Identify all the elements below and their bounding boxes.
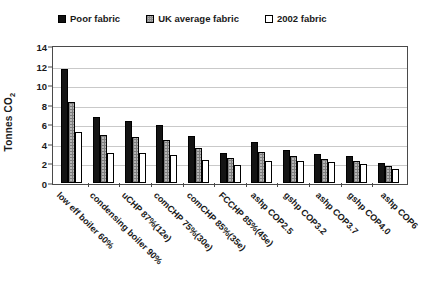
bar-0: [156, 125, 163, 183]
x-axis-tick-mark: [309, 183, 310, 187]
y-axis-tick-label: 0: [42, 179, 47, 190]
bar-0: [346, 156, 353, 183]
x-axis-label: comCHP 85%(35e): [185, 190, 248, 253]
y-axis-tick-mark: [48, 105, 52, 106]
bar-2: [328, 162, 335, 183]
bar-1: [100, 135, 107, 183]
bar-0: [314, 154, 321, 183]
x-axis-label: low eff boiler 60%: [55, 190, 116, 251]
bar-group: [183, 48, 215, 183]
bar-2: [107, 153, 114, 183]
y-axis-title: Tonnes CO2: [2, 62, 18, 182]
bar-group: [119, 48, 151, 183]
bar-0: [251, 142, 258, 183]
plot-area: [52, 46, 408, 185]
bar-group: [246, 48, 278, 183]
y-axis-tick-mark: [48, 125, 52, 126]
y-axis-tick-mark: [48, 144, 52, 145]
y-axis-tick-mark: [48, 66, 52, 67]
x-axis-tick-mark: [183, 183, 184, 187]
bar-1: [163, 140, 170, 183]
bar-1: [321, 159, 328, 183]
x-axis-tick-mark: [151, 183, 152, 187]
bars-layer: [54, 48, 406, 183]
y-axis-tick-mark: [48, 164, 52, 165]
bar-group: [309, 48, 341, 183]
bar-0: [188, 136, 195, 183]
bar-2: [170, 155, 177, 183]
bar-group: [151, 48, 183, 183]
x-axis-tick-mark: [88, 183, 89, 187]
x-axis-label: comCHP 75%(30e): [152, 190, 215, 253]
bar-group: [56, 48, 88, 183]
x-axis-tick-mark: [277, 183, 278, 187]
bar-group: [214, 48, 246, 183]
x-axis-tick-mark: [341, 183, 342, 187]
bar-2: [297, 161, 304, 184]
y-axis-title-text: Tonnes CO: [3, 97, 14, 151]
2002-fabric-swatch-icon: [265, 15, 273, 23]
y-axis-tick-label: 2: [42, 159, 47, 170]
bar-1: [385, 166, 392, 183]
bar-1: [258, 152, 265, 183]
y-axis-tick-mark: [48, 184, 52, 185]
bar-2: [139, 153, 146, 183]
y-axis-tick-label: 6: [42, 120, 47, 131]
x-axis-labels: low eff boiler 60%condensing boiler 90%u…: [52, 190, 408, 290]
bar-0: [283, 150, 290, 183]
legend-label-uk-average-fabric: UK average fabric: [158, 13, 239, 24]
y-axis-tick-mark: [48, 86, 52, 87]
plot-wrapper: 02468101214: [52, 46, 408, 185]
x-axis-label: FCCHP 85%(45e): [217, 190, 275, 248]
bar-1: [290, 156, 297, 183]
legend-item-2002-fabric: 2002 fabric: [265, 13, 327, 24]
legend-item-poor-fabric: Poor fabric: [58, 13, 120, 24]
y-axis-tick-label: 4: [42, 139, 47, 150]
x-axis-tick-mark: [214, 183, 215, 187]
bar-0: [125, 121, 132, 183]
bar-1: [227, 158, 234, 183]
y-axis-tick-mark: [48, 47, 52, 48]
y-axis-tick-label: 12: [36, 61, 47, 72]
bar-2: [392, 169, 399, 183]
bar-0: [93, 117, 100, 183]
bar-group: [88, 48, 120, 183]
x-axis-tick-mark: [372, 183, 373, 187]
bar-0: [220, 153, 227, 183]
x-axis-tick-mark: [246, 183, 247, 187]
legend-label-poor-fabric: Poor fabric: [70, 13, 120, 24]
legend-item-uk-average-fabric: UK average fabric: [146, 13, 239, 24]
bar-1: [353, 161, 360, 184]
bar-2: [265, 161, 272, 183]
bar-group: [277, 48, 309, 183]
bar-1: [195, 148, 202, 183]
x-axis-tick-mark: [119, 183, 120, 187]
y-axis-title-subscript: 2: [8, 93, 17, 97]
bar-2: [202, 160, 209, 183]
bar-1: [132, 137, 139, 183]
bar-0: [61, 69, 68, 183]
bar-1: [68, 102, 75, 183]
bar-2: [360, 164, 367, 183]
bar-2: [234, 165, 241, 183]
legend-label-2002-fabric: 2002 fabric: [277, 13, 327, 24]
bar-2: [75, 132, 82, 183]
bar-group: [372, 48, 404, 183]
uk-average-fabric-swatch-icon: [146, 15, 154, 23]
y-axis-tick-label: 14: [36, 42, 47, 53]
poor-fabric-swatch-icon: [58, 15, 66, 23]
bar-0: [378, 163, 385, 183]
y-axis-tick-label: 8: [42, 100, 47, 111]
bar-chart: Poor fabric UK average fabric 2002 fabri…: [0, 0, 421, 295]
y-axis-tick-label: 10: [36, 81, 47, 92]
bar-group: [341, 48, 373, 183]
chart-legend: Poor fabric UK average fabric 2002 fabri…: [58, 13, 327, 24]
